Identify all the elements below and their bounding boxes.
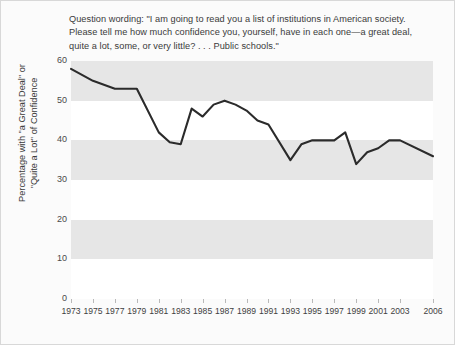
chart-figure: Question wording: "I am going to read yo…: [0, 0, 455, 345]
x-tick-mark: [93, 299, 94, 303]
y-tick-label: 60: [43, 55, 67, 65]
y-tick-label: 10: [43, 253, 67, 263]
plot-area: [71, 61, 433, 299]
y-axis-ticks: 0102030405060: [39, 61, 67, 299]
y-tick-label: 40: [43, 134, 67, 144]
x-tick-label: 1987: [215, 306, 234, 316]
x-tick-label: 1991: [259, 306, 278, 316]
x-tick-mark: [268, 299, 269, 303]
y-tick-label: 30: [43, 174, 67, 184]
x-tick-mark: [159, 299, 160, 303]
y-tick-label: 20: [43, 214, 67, 224]
x-tick-mark: [356, 299, 357, 303]
x-tick-mark: [400, 299, 401, 303]
x-tick-mark: [71, 299, 72, 303]
x-tick-mark: [247, 299, 248, 303]
x-tick-label: 1983: [171, 306, 190, 316]
x-tick-label: 1997: [325, 306, 344, 316]
x-tick-mark: [115, 299, 116, 303]
x-tick-mark: [334, 299, 335, 303]
x-tick-mark: [203, 299, 204, 303]
x-axis-ticks: [71, 299, 433, 304]
x-tick-label: 1979: [127, 306, 146, 316]
x-tick-mark: [181, 299, 182, 303]
y-axis-title: Percentage with "a Great Deal" or "Quite…: [16, 33, 40, 233]
x-tick-label: 1989: [237, 306, 256, 316]
x-tick-mark: [378, 299, 379, 303]
x-tick-label: 1975: [83, 306, 102, 316]
x-tick-label: 2006: [423, 306, 442, 316]
x-tick-label: 1977: [105, 306, 124, 316]
x-tick-label: 2003: [391, 306, 410, 316]
x-tick-label: 1995: [303, 306, 322, 316]
x-tick-mark: [312, 299, 313, 303]
x-tick-label: 1981: [149, 306, 168, 316]
x-tick-mark: [433, 299, 434, 303]
x-tick-label: 1999: [347, 306, 366, 316]
x-tick-mark: [290, 299, 291, 303]
y-tick-label: 50: [43, 95, 67, 105]
x-tick-mark: [225, 299, 226, 303]
question-wording-note: Question wording: "I am going to read yo…: [69, 13, 441, 53]
x-tick-label: 2001: [369, 306, 388, 316]
y-tick-label: 0: [43, 293, 67, 303]
series-line: [71, 61, 433, 299]
x-tick-label: 1985: [193, 306, 212, 316]
x-tick-label: 1993: [281, 306, 300, 316]
x-tick-mark: [137, 299, 138, 303]
x-axis-labels: 1973197519771979198119831985198719891991…: [71, 306, 433, 322]
x-tick-label: 1973: [61, 306, 80, 316]
